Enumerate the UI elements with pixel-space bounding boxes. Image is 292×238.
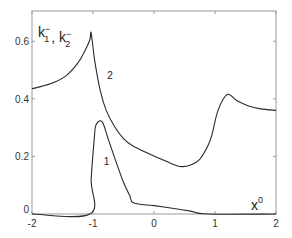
chart: -2-101200.20.40.6 12 k−1, k−2 x0	[0, 0, 292, 238]
y-tick-label: 0.4	[15, 94, 29, 105]
curve-label-1: 1	[104, 156, 110, 167]
x-tick-label: 0	[151, 218, 157, 229]
y-tick-label: 0.6	[15, 36, 29, 47]
x-tick-label: -2	[28, 218, 37, 229]
y-tick-label: 0.2	[15, 151, 29, 162]
x-tick-label: 1	[212, 218, 218, 229]
x-tick-label: 2	[273, 218, 279, 229]
y-tick-label: 0	[23, 204, 29, 215]
curve-label-2: 2	[107, 70, 113, 81]
x-tick-label: -1	[89, 218, 98, 229]
